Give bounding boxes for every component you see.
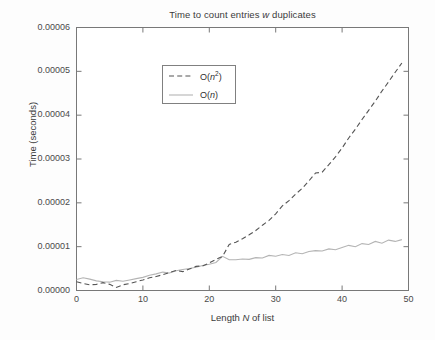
plot-area: O(n2) O(n) — [76, 27, 409, 291]
legend-sample-dashed-icon — [168, 70, 194, 82]
y-tick-label: 0.00006 — [4, 22, 70, 32]
legend-label-quadratic: O(n2) — [200, 70, 222, 82]
x-tick-label: 10 — [123, 294, 163, 304]
x-tick-label: 30 — [256, 294, 296, 304]
chart-title-after: duplicates — [269, 9, 316, 20]
chart-title-before: Time to count entries — [169, 9, 262, 20]
plot-svg — [76, 27, 409, 291]
legend-sample-solid-icon — [168, 89, 194, 101]
legend-box: O(n2) O(n) — [162, 65, 236, 104]
y-axis-label: Time (seconds) — [27, 55, 38, 215]
figure-canvas: Time to count entries w duplicates 0.000… — [0, 0, 435, 340]
legend-item-linear: O(n) — [163, 85, 235, 104]
x-axis-label-after: of list — [249, 312, 274, 323]
x-axis-label-before: Length — [211, 312, 243, 323]
x-tick-label: 40 — [322, 294, 362, 304]
x-tick-label: 50 — [389, 294, 429, 304]
chart-title: Time to count entries w duplicates — [76, 9, 409, 20]
x-tick-label: 0 — [57, 294, 97, 304]
legend-label-linear: O(n) — [200, 90, 218, 100]
axes-frame — [77, 28, 409, 291]
x-axis-label: Length N of list — [76, 312, 409, 323]
x-axis-tick-labels: 01020304050 — [76, 294, 409, 308]
y-tick-label: 0.00000 — [4, 285, 70, 295]
legend-item-quadratic: O(n2) — [163, 66, 235, 85]
x-tick-label: 20 — [189, 294, 229, 304]
y-tick-label: 0.00001 — [4, 241, 70, 251]
